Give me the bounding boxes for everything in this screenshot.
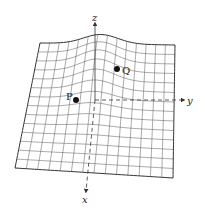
point-q-label: Q: [122, 65, 130, 76]
y-axis-label: y: [186, 95, 193, 106]
x-axis-label: x: [82, 194, 88, 205]
point-q-marker: [114, 66, 120, 72]
point-p-marker: [73, 97, 79, 103]
point-p-label: P: [66, 91, 73, 102]
surface-diagram: z y x P Q: [0, 0, 205, 215]
z-axis-label: z: [91, 12, 98, 23]
